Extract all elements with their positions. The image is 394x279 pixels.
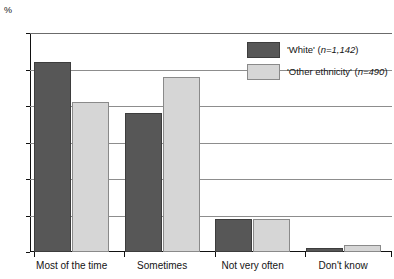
bar-chart: % 0102030405060Most of the timeSometimes… (0, 0, 394, 279)
y-tick-mark-20 (26, 179, 30, 180)
legend-item-other: 'Other ethnicity' (n=490) (247, 63, 388, 80)
x-tick-mark (215, 252, 216, 257)
gridline-60 (30, 33, 392, 34)
x-tick-mark (391, 252, 392, 257)
x-axis-category-label: Sometimes (137, 260, 187, 271)
bar (215, 219, 252, 252)
legend-item-white: 'White' (n=1,142) (247, 41, 388, 58)
x-tick-mark (305, 252, 306, 257)
x-tick-mark (124, 252, 125, 257)
bar (163, 77, 200, 252)
bar (125, 113, 162, 252)
legend-swatch-icon-other (247, 64, 280, 80)
y-axis-unit-label: % (4, 6, 12, 15)
x-axis-category-label: Most of the time (36, 260, 107, 271)
bar (34, 62, 71, 252)
y-tick-mark-10 (26, 216, 30, 217)
chart-legend: 'White' (n=1,142) 'Other ethnicity' (n=4… (247, 41, 388, 85)
bar (253, 219, 290, 252)
x-tick-mark (34, 252, 35, 257)
legend-label-white: 'White' (n=1,142) (287, 45, 359, 55)
y-tick-mark-60 (26, 33, 30, 34)
bar (306, 248, 343, 252)
x-axis-category-label: Not very often (221, 260, 283, 271)
bar (344, 245, 381, 252)
bar (72, 102, 109, 252)
y-tick-mark-0 (26, 252, 30, 253)
y-tick-mark-40 (26, 106, 30, 107)
legend-label-other: 'Other ethnicity' (n=490) (287, 67, 388, 77)
x-axis-category-label: Don't know (319, 260, 368, 271)
y-tick-mark-30 (26, 143, 30, 144)
legend-swatch-icon-white (247, 42, 280, 58)
y-tick-mark-50 (26, 70, 30, 71)
